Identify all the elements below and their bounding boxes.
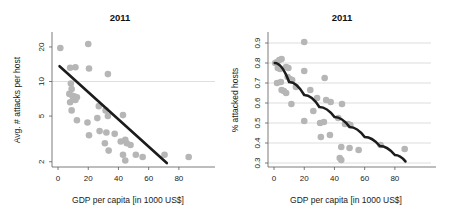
x-tick-label: 20 <box>84 174 93 183</box>
data-point <box>133 151 140 158</box>
y-tick-label: 0.9 <box>253 37 262 49</box>
left-trend-line <box>60 66 167 163</box>
data-point <box>111 131 118 138</box>
y-tick-label: 0.3 <box>253 157 262 169</box>
two-panel-scatter-figure: 201052 020406080 2011 GDP per capita [in… <box>0 0 449 219</box>
right-y-axis-label: % attacked hosts <box>230 68 240 133</box>
data-point <box>74 117 81 124</box>
data-point <box>346 145 353 152</box>
right-data-points <box>272 39 408 164</box>
x-tick-label: 0 <box>56 174 61 183</box>
left-plot-svg: 201052 020406080 2011 GDP per capita [in… <box>0 0 224 219</box>
x-tick-label: 40 <box>114 174 123 183</box>
panel-right: 0.90.80.70.60.50.40.3 020406080 2011 GDP… <box>224 0 449 219</box>
left-x-ticks: 020406080 <box>56 167 184 183</box>
data-point <box>72 97 79 104</box>
data-point <box>278 56 285 63</box>
data-point <box>105 147 112 154</box>
data-point <box>102 140 109 147</box>
data-point <box>105 113 112 120</box>
y-tick-label: 0.4 <box>253 137 262 149</box>
data-point <box>338 157 345 164</box>
data-point <box>103 129 110 136</box>
left-y-axis-label: Avg. # attacks per host <box>12 56 22 143</box>
x-tick-label: 80 <box>174 174 183 183</box>
data-point <box>301 68 308 75</box>
data-point <box>327 99 334 106</box>
left-y-ticks: 201052 <box>37 42 52 164</box>
y-tick-label: 2 <box>37 159 46 164</box>
y-tick-label: 20 <box>37 42 46 51</box>
data-point <box>338 144 345 151</box>
data-point <box>127 142 134 149</box>
data-point <box>57 45 64 52</box>
right-panel-title: 2011 <box>332 12 353 23</box>
data-point <box>122 157 129 164</box>
y-tick-label: 5 <box>37 113 46 118</box>
data-point <box>301 39 308 46</box>
right-x-ticks: 020406080 <box>272 167 400 183</box>
data-point <box>94 115 101 122</box>
data-point <box>278 79 285 86</box>
data-point <box>72 64 79 71</box>
x-tick-label: 0 <box>272 174 277 183</box>
panel-left: 201052 020406080 2011 GDP per capita [in… <box>0 0 224 219</box>
data-point <box>355 147 362 154</box>
left-panel-title: 2011 <box>110 12 131 23</box>
data-point <box>105 71 112 78</box>
data-point <box>285 65 292 72</box>
left-data-points <box>57 41 192 164</box>
data-point <box>339 101 346 108</box>
right-x-axis-label: GDP per capita [in 1000 US$] <box>290 195 402 205</box>
data-point <box>283 90 290 97</box>
y-tick-label: 0.7 <box>253 77 262 89</box>
x-tick-label: 80 <box>390 174 399 183</box>
data-point <box>96 128 103 135</box>
data-point <box>321 75 328 82</box>
y-tick-label: 0.8 <box>253 57 262 69</box>
data-point <box>327 132 334 139</box>
x-tick-label: 60 <box>144 174 153 183</box>
data-point <box>120 112 127 119</box>
data-point <box>301 118 308 125</box>
left-x-axis-label: GDP per capita [in 1000 US$] <box>72 195 184 205</box>
x-tick-label: 20 <box>300 174 309 183</box>
right-plot-svg: 0.90.80.70.60.50.40.3 020406080 2011 GDP… <box>224 0 449 219</box>
data-point <box>310 108 317 115</box>
data-point <box>288 101 295 108</box>
data-point <box>307 87 314 94</box>
y-tick-label: 0.5 <box>253 117 262 129</box>
data-point <box>185 154 192 161</box>
y-tick-label: 10 <box>37 77 46 86</box>
x-tick-label: 60 <box>360 174 369 183</box>
data-point <box>139 154 146 161</box>
x-tick-label: 40 <box>330 174 339 183</box>
data-point <box>84 119 91 126</box>
data-point <box>86 132 93 139</box>
y-tick-label: 0.6 <box>253 97 262 109</box>
data-point <box>68 107 75 114</box>
data-point <box>161 151 168 158</box>
data-point <box>318 134 325 141</box>
data-point <box>401 146 408 153</box>
data-point <box>120 151 127 158</box>
right-y-ticks: 0.90.80.70.60.50.40.3 <box>253 37 268 169</box>
data-point <box>321 119 328 126</box>
data-point <box>85 41 92 48</box>
data-point <box>86 65 93 72</box>
